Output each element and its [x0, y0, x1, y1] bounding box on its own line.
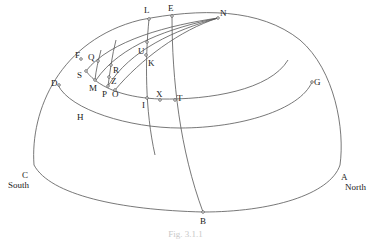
- label-U: U: [138, 46, 145, 56]
- label-north: North: [345, 182, 366, 192]
- figure-caption: Fig. 3.1.1: [0, 229, 371, 239]
- label-D: D: [51, 78, 58, 88]
- meridian-NR: [108, 18, 218, 86]
- label-Q: Q: [88, 52, 95, 62]
- meridian-NO: [115, 18, 218, 90]
- label-N: N: [220, 8, 227, 18]
- base-arc: [34, 165, 340, 212]
- label-G: G: [314, 77, 321, 87]
- outer-dome-arc: [34, 13, 342, 165]
- label-X: X: [156, 89, 163, 99]
- label-K: K: [148, 58, 155, 68]
- label-R: R: [113, 65, 119, 75]
- label-L: L: [144, 5, 150, 15]
- hemisphere-diagram: L E N F Q U K R S Z D M P O G I X T H C …: [0, 0, 371, 239]
- points: [58, 15, 314, 214]
- label-T: T: [177, 93, 183, 103]
- label-A: A: [341, 172, 348, 182]
- label-M: M: [89, 83, 97, 93]
- vertical-L: [147, 19, 155, 155]
- line-QM: [95, 50, 101, 80]
- label-S: S: [77, 70, 82, 80]
- label-H: H: [77, 112, 84, 122]
- label-C: C: [22, 170, 28, 180]
- label-F: F: [75, 50, 80, 60]
- label-O: O: [112, 89, 119, 99]
- label-I: I: [142, 100, 145, 110]
- label-E: E: [168, 3, 174, 13]
- label-south: South: [8, 180, 30, 190]
- label-Z: Z: [111, 76, 117, 86]
- label-B: B: [200, 216, 206, 226]
- label-P: P: [102, 89, 107, 99]
- vertical-E: [172, 16, 203, 212]
